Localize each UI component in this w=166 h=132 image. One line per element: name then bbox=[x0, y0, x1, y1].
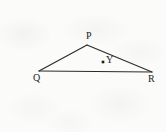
geometry-figure: P Q R Y bbox=[0, 0, 166, 132]
point-marker-y bbox=[102, 61, 105, 64]
segment-p-to-r bbox=[87, 45, 152, 72]
point-label-y: Y bbox=[106, 55, 113, 65]
point-label-q: Q bbox=[33, 73, 40, 83]
point-label-p: P bbox=[86, 31, 92, 41]
point-label-r: R bbox=[148, 74, 155, 84]
geometry-canvas bbox=[0, 0, 166, 132]
segment-q-to-r bbox=[39, 71, 152, 72]
segment-q-to-p bbox=[39, 45, 87, 71]
